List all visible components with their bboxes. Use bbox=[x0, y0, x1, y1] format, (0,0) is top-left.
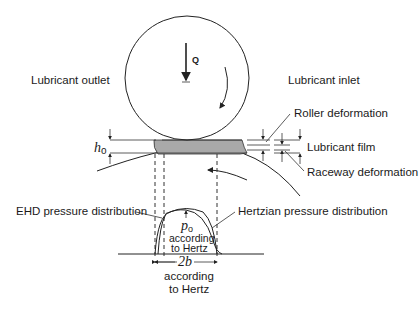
lubricant-film bbox=[154, 140, 247, 154]
lubricant-film-label: Lubricant film bbox=[307, 141, 375, 153]
width-note-1: according bbox=[164, 270, 214, 282]
raceway-deformation-label: Raceway deformation bbox=[307, 166, 418, 178]
h0-symbol: ho bbox=[94, 140, 107, 156]
ehd-contact-diagram: ho Q po according to Hertz 2b according … bbox=[0, 0, 419, 310]
ehd-pressure-label: EHD pressure distribution bbox=[16, 205, 147, 217]
load-label: Q bbox=[192, 55, 199, 65]
lubricant-inlet-label: Lubricant inlet bbox=[288, 74, 360, 86]
width-symbol: 2b bbox=[178, 254, 192, 269]
p0-note-2: to Hertz bbox=[171, 242, 208, 254]
width-note-2: to Hertz bbox=[169, 283, 210, 295]
hertzian-pressure-label: Hertzian pressure distribution bbox=[238, 205, 388, 217]
roller-deformation-label: Roller deformation bbox=[294, 107, 388, 119]
lubricant-outlet-label: Lubricant outlet bbox=[31, 74, 110, 86]
roller bbox=[125, 16, 249, 140]
flow-arrow-icon bbox=[208, 170, 247, 180]
rotation-arrow-icon bbox=[220, 67, 228, 108]
